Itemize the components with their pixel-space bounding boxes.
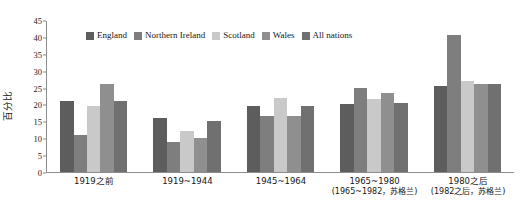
- x-axis-category-sublabel: (1965~1982，苏格兰): [328, 187, 422, 197]
- x-axis-category-label: 1919之前: [47, 176, 141, 197]
- bar-group-bars: [60, 21, 127, 172]
- y-axis-tick-mark: [43, 37, 46, 38]
- y-axis-tick-mark: [43, 105, 46, 106]
- bar: [100, 84, 113, 172]
- x-axis-category-main: 1965~1980: [349, 176, 399, 186]
- bar: [260, 116, 273, 172]
- bar-group-bars: [247, 21, 314, 172]
- legend-swatch-icon: [86, 32, 94, 40]
- legend-swatch-icon: [302, 32, 310, 40]
- bar-group: [47, 21, 140, 172]
- y-axis-tick-mark: [43, 71, 46, 72]
- y-axis-title: 百分比: [0, 76, 14, 136]
- bar: [247, 106, 260, 172]
- bar-groups: [47, 21, 514, 172]
- bar: [194, 138, 207, 172]
- legend-label: All nations: [313, 31, 353, 40]
- legend-item[interactable]: All nations: [302, 31, 353, 40]
- bar: [114, 101, 127, 172]
- bar: [474, 84, 487, 172]
- bar: [301, 106, 314, 172]
- x-axis-category-main: 1945~1964: [256, 176, 306, 186]
- legend-swatch-icon: [262, 32, 270, 40]
- legend-label: Scotland: [223, 31, 255, 40]
- legend-item[interactable]: Wales: [262, 31, 295, 40]
- chart-legend: EnglandNorthern IrelandScotlandWalesAll …: [86, 31, 352, 40]
- bar: [434, 86, 447, 172]
- legend-item[interactable]: Scotland: [212, 31, 255, 40]
- bar: [381, 93, 394, 172]
- y-axis-tick-mark: [43, 21, 46, 22]
- x-axis-category-label: 1980之后(1982之后，苏格兰): [421, 176, 515, 197]
- x-axis-labels: 1919之前1919~19441945~19641965~1980(1965~1…: [47, 176, 515, 197]
- bar: [87, 106, 100, 172]
- legend-item[interactable]: Northern Ireland: [134, 31, 205, 40]
- plot-area: 051015202530354045: [46, 21, 514, 173]
- x-axis-category-main: 1919之前: [74, 176, 114, 186]
- x-axis-category-main: 1980之后: [448, 176, 488, 186]
- legend-label: Northern Ireland: [145, 31, 205, 40]
- y-axis-tick-mark: [43, 173, 46, 174]
- legend-label: England: [97, 31, 127, 40]
- legend-item[interactable]: England: [86, 31, 127, 40]
- x-axis-category-label: 1945~1964: [234, 176, 328, 197]
- y-axis-tick-mark: [43, 88, 46, 89]
- bar: [461, 81, 474, 172]
- bar: [167, 142, 180, 172]
- bar: [274, 98, 287, 172]
- bar-group-bars: [434, 21, 501, 172]
- legend-swatch-icon: [212, 32, 220, 40]
- bar: [207, 121, 220, 172]
- y-axis-tick-mark: [43, 54, 46, 55]
- bar-chart: 百分比 051015202530354045 EnglandNorthern I…: [0, 0, 520, 215]
- bar: [488, 84, 501, 172]
- bar: [74, 135, 87, 172]
- y-axis-tick-mark: [43, 122, 46, 123]
- bar: [447, 35, 460, 172]
- x-axis-category-label: 1965~1980(1965~1982，苏格兰): [328, 176, 422, 197]
- bar: [340, 104, 353, 172]
- bar-group-bars: [340, 21, 407, 172]
- y-axis-tick-mark: [43, 139, 46, 140]
- x-axis-line: [46, 172, 514, 173]
- bar: [180, 131, 193, 172]
- bar: [354, 88, 367, 172]
- legend-swatch-icon: [134, 32, 142, 40]
- bar: [60, 101, 73, 172]
- bar: [394, 103, 407, 172]
- legend-label: Wales: [273, 31, 295, 40]
- x-axis-category-label: 1919~1944: [141, 176, 235, 197]
- bar-group: [421, 21, 514, 172]
- bar-group-bars: [153, 21, 220, 172]
- bar: [287, 116, 300, 172]
- bar-group: [234, 21, 327, 172]
- x-axis-category-main: 1919~1944: [162, 176, 212, 186]
- bar-group: [140, 21, 233, 172]
- y-axis-tick-mark: [43, 156, 46, 157]
- x-axis-category-sublabel: (1982之后，苏格兰): [421, 187, 515, 197]
- bar-group: [327, 21, 420, 172]
- bar: [153, 118, 166, 172]
- bar: [367, 99, 380, 172]
